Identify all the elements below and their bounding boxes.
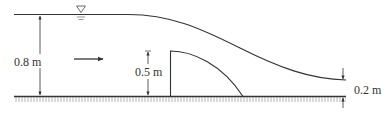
channel-bed [14, 97, 346, 103]
water-surface [14, 15, 346, 81]
upstream-depth-label: 0.8 m [13, 56, 42, 68]
weir [171, 51, 244, 97]
free-surface-triangle-icon [77, 6, 86, 20]
weir-height-label: 0.5 m [134, 66, 163, 78]
channel-diagram [0, 0, 390, 114]
downstream-depth-label: 0.2 m [354, 84, 381, 96]
